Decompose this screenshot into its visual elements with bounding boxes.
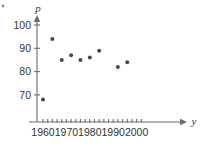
scatter-plot-figure: py70809010019601970198019902000 xyxy=(0,0,202,151)
y-tick-label: 70 xyxy=(19,89,31,101)
data-point xyxy=(60,58,64,62)
corner-artifact-dot xyxy=(2,5,5,8)
x-tick-label: 1960 xyxy=(31,126,55,138)
data-point xyxy=(97,49,101,53)
data-point xyxy=(78,58,82,62)
x-axis-label: y xyxy=(191,115,197,127)
data-point xyxy=(69,53,73,57)
x-tick-label: 2000 xyxy=(125,126,149,138)
y-tick-label: 90 xyxy=(19,42,31,54)
data-point xyxy=(50,37,54,41)
data-point xyxy=(41,98,45,102)
data-point xyxy=(116,65,120,69)
x-tick-label: 1990 xyxy=(102,126,126,138)
data-point xyxy=(125,60,129,64)
y-axis-label: p xyxy=(34,2,41,14)
plot-canvas: py70809010019601970198019902000 xyxy=(0,0,202,151)
y-tick-label: 100 xyxy=(13,19,31,31)
y-axis-arrowhead xyxy=(34,15,40,22)
y-tick-label: 80 xyxy=(19,65,31,77)
x-tick-label: 1970 xyxy=(55,126,79,138)
x-tick-label: 1980 xyxy=(78,126,102,138)
x-axis-arrowhead xyxy=(180,119,187,125)
data-point xyxy=(88,56,92,60)
